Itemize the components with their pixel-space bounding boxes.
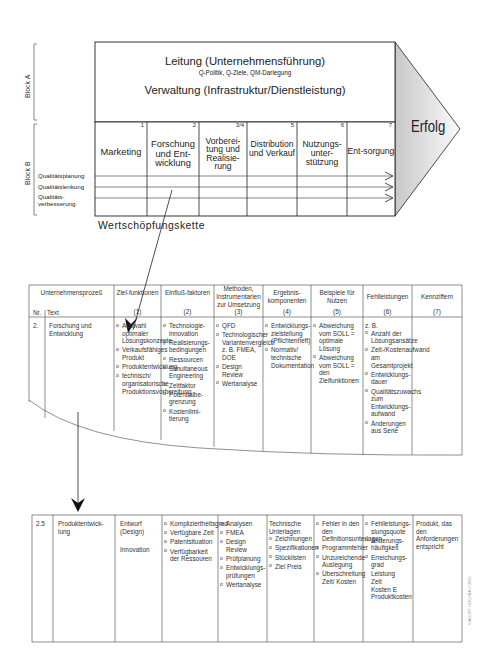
table2-col7-cell: Produkt, das den Anforderungen entsprich…	[416, 520, 460, 550]
block-a-label: Block A	[24, 75, 31, 98]
table2-col6-cell: Fehlleistungs-slungsquoteÄnderungs-häufi…	[365, 520, 412, 601]
column-title-entsorgung: Ent-sorgung	[347, 147, 395, 156]
column-title-forschung: Forschung und Ent-wicklung	[147, 140, 199, 169]
table1-header-process: Unternehmensprozeß	[29, 289, 114, 297]
bullet-item: Verfügbarkeit der Ressouren	[164, 548, 217, 563]
bullet-item: Spezifikationen	[269, 544, 314, 552]
bullet-item: Anzahl der Lösungsansätze	[365, 330, 411, 345]
column-number: 1	[130, 122, 144, 128]
table1-col-num: (3)	[214, 308, 263, 316]
table1-col4-cell: Entwicklungs-zielstellung (Pflichtenheft…	[265, 322, 310, 371]
table1-header-col1: Ziel-funktionen	[114, 289, 161, 297]
column-number: 3/4	[230, 122, 244, 128]
table1-col1-cell: Auswahl optimaler LösungskonzepteVerkauf…	[116, 322, 160, 397]
bullet-item: Zeit-/Kostenaufwand am Gesamtprojekt	[365, 346, 411, 369]
success-label: Erfolg	[411, 118, 445, 136]
bullet-item: Entwicklungs-prüfungen	[220, 564, 266, 579]
col6-extra-item: Zeit	[371, 578, 412, 586]
block-brackets	[34, 44, 37, 215]
table2-row-text: Produktentwick-lung	[58, 520, 110, 535]
bullet-item: Wertanalyse	[216, 380, 262, 388]
column-title-nutzung: Nutzungs-unter-stützung	[297, 140, 347, 166]
table1-header-col5: Beispiele für Nutzen	[311, 289, 363, 305]
table2-col6-extra: Leistung Zeit Kosten E Produktkosten	[365, 570, 412, 600]
column-number: 6	[330, 122, 344, 128]
table2-col1-innovation: Innovation	[120, 546, 160, 554]
table2-col4-cell: Technische Unterlagen ZeichnungenSpezifi…	[269, 520, 314, 572]
block-a-title-verwaltung: Verwaltung (Infrastruktur/Dienstleistung…	[95, 84, 395, 96]
bullet-item: Wertanalyse	[220, 581, 266, 589]
table2-col3-cell: AnalysenFMEADesign ReviewPrüfplanungEntw…	[220, 520, 266, 590]
quality-row-label-control: Qualitätslenkung	[38, 183, 84, 190]
bullet-item: Erreichungs-grad	[365, 554, 412, 569]
bullet-item: Prüfplanung	[220, 555, 266, 563]
quality-row-label-improvement: Qualitäts-verbesserung	[38, 193, 78, 207]
bullet-item: Zeitfaktor	[163, 382, 213, 390]
block-a-subtitle: Q-Politik, Q-Ziele, QM-Darlegung	[95, 69, 395, 76]
bullet-item: Programmfehler	[316, 544, 362, 552]
column-number: 2	[182, 122, 196, 128]
bullet-item: Verkaufsfähiges Produkt	[116, 346, 160, 361]
block-a-box	[95, 42, 395, 122]
col6-extra-item: Produktkosten	[371, 593, 412, 601]
bullet-item: FMEA	[220, 529, 266, 537]
table1-header-text: Text	[47, 309, 59, 317]
bullet-item: Kostenlimi-tierung	[163, 408, 213, 423]
bullet-item: Realisierungs-bedingungen	[163, 339, 213, 354]
bullet-item: Normativ/ technische Dokumentation	[265, 346, 310, 369]
column-number: 7	[378, 122, 392, 128]
table2-row-nr: 2.5	[36, 520, 45, 528]
table1-col-num: (7)	[412, 308, 462, 316]
table1-col5-cell: Abweichung vom SOLL = optimale LösungAbw…	[313, 322, 361, 386]
bullet-item: Entwicklungs-dauer	[365, 371, 411, 386]
side-note: VIADUKT HOCHBAU ORIV	[468, 576, 472, 625]
bullet-item: Überschreitung Zeit/ Kosten	[316, 570, 362, 585]
column-number: 5	[280, 122, 294, 128]
bullet-item: technisch/ organisatorische Produktionsv…	[116, 372, 160, 395]
quality-row-label-planning: Qualitätsplanung	[38, 172, 84, 179]
value-chain-label: Wertschöpfungskette	[98, 220, 205, 231]
column-title-vorbereitung: Vorberei-tung und Realisie-rung	[199, 137, 247, 171]
table1-header-col2: Einfluß-faktoren	[161, 289, 214, 297]
bullet-item: Fehler in den den Definitionsunterlagen	[316, 520, 362, 543]
bullet-item: Technologie-innovation	[163, 322, 213, 337]
bullet-item: Zeichnungen	[269, 535, 314, 543]
block-a-title-leitung: Leitung (Unternehmensführung)	[95, 55, 395, 67]
bullet-item: Abweichung vom SOLL = optimale Lösung	[313, 322, 361, 352]
table1-col2-cell: Technologie-innovationRealisierungs-bedi…	[163, 322, 213, 424]
bullet-item: Design Review	[216, 363, 262, 378]
table1-header-col4: Ergebnis-komponenten	[263, 289, 311, 305]
bullet-item: Stücklisten	[269, 554, 314, 562]
bullet-item: Potentialbe-grenzung	[163, 391, 213, 406]
table1-col-num: (5)	[311, 308, 363, 316]
table1-header-col7: Kennziffern	[412, 293, 462, 301]
bullet-item: Kompliziertheitsgrad	[164, 520, 217, 528]
table1-row-text: Forschung und Entwicklung	[49, 322, 109, 337]
bullet-item: Patentsituation	[164, 538, 217, 546]
table1-col6-cell: z. B. Anzahl der LösungsansätzeZeit-/Kos…	[365, 322, 411, 436]
table2-col5-cell: Fehler in den den DefinitionsunterlagenP…	[316, 520, 362, 587]
table1-header-col3: Methoden, Instrumentarien zur Umsetzung	[214, 285, 263, 309]
column-title-marketing: Marketing	[95, 148, 147, 158]
bullet-item: Verfügbare Zeit	[164, 529, 217, 537]
bullet-item: Auswahl optimaler Lösungskonzepte	[116, 322, 160, 345]
bullet-item: QFD	[216, 322, 262, 330]
bullet-item: Produktentwicklung	[116, 363, 160, 371]
column-title-distribution: Distribution und Verkauf	[247, 140, 297, 158]
table1-col-num: (4)	[263, 308, 311, 316]
bullet-item: Änderungen aus Serie	[365, 420, 411, 435]
table1-col-num: (2)	[161, 308, 214, 316]
table2-col4-intro: Technische Unterlagen	[269, 520, 314, 535]
bullet-item: Technologischer Variantenvergleich z. B.…	[216, 331, 262, 361]
table1-header-nr: Nr.	[29, 309, 45, 317]
block-b-label: Block B	[24, 161, 31, 185]
table1-col3-cell: QFDTechnologischer Variantenvergleich z.…	[216, 322, 262, 389]
table1-col-num: (6)	[363, 308, 412, 316]
bullet-item: Fehlleistungs-slungsquote	[365, 520, 412, 535]
table1-row-nr: 2.	[33, 322, 38, 330]
bullet-item: Simultaneous Engineering	[163, 365, 213, 380]
table2-col2-cell: KompliziertheitsgradVerfügbare ZeitPaten…	[164, 520, 217, 564]
table1-col-num: (1)	[114, 308, 161, 316]
bullet-item: Analysen	[220, 520, 266, 528]
bullet-item: Qualitätszuwachs zum Entwicklungs-aufwan…	[365, 388, 411, 418]
